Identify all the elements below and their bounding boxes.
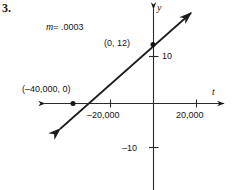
plot-svg <box>0 0 233 190</box>
data-point-y-intercept <box>151 42 156 47</box>
plotted-line <box>60 13 191 129</box>
data-point-t-intercept <box>71 101 76 106</box>
figure-container: 3. m= .0003 (0, 12) (–40,000, 0) 10 –10 … <box>0 0 233 190</box>
